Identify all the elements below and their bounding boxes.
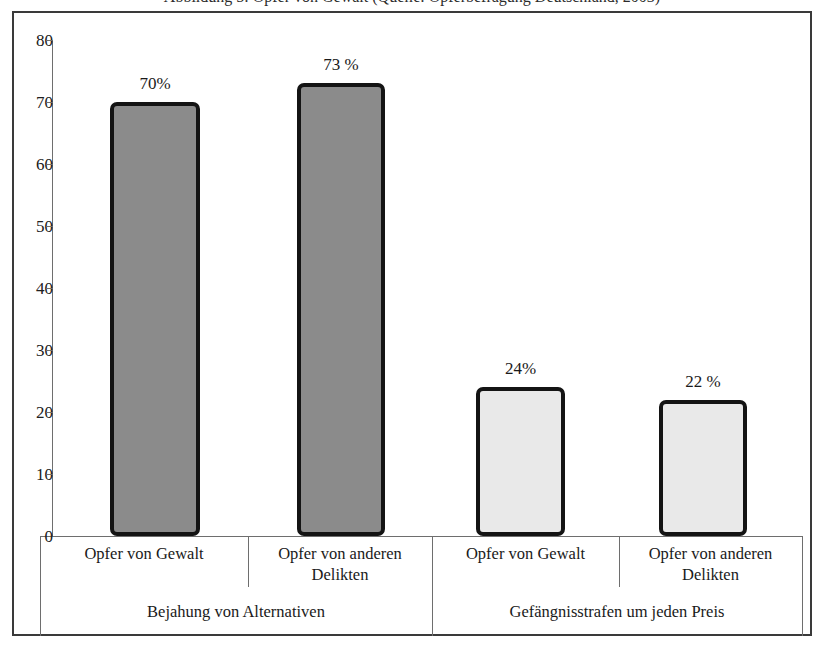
bar-0-value-label: 70% <box>110 75 200 93</box>
bar-3-value-label: 22 % <box>659 373 747 391</box>
category-label-0: Opfer von Gewalt <box>40 543 248 564</box>
bar-1[interactable] <box>297 83 385 536</box>
group-label-0: Bejahung von Alternativen <box>40 601 432 622</box>
category-label-2-line1: Opfer von Gewalt <box>432 543 619 564</box>
bar-2-value-label: 24% <box>476 360 565 378</box>
category-sep-right <box>802 536 803 587</box>
group-label-1: Gefängnisstrafen um jeden Preis <box>432 601 802 622</box>
bar-3[interactable] <box>659 400 747 536</box>
y-tick-mark-60 <box>46 164 53 165</box>
bar-2[interactable] <box>476 387 565 536</box>
y-tick-mark-40 <box>46 288 53 289</box>
bar-1-value-label: 73 % <box>297 56 385 74</box>
category-label-1-line2: Delikten <box>248 564 432 585</box>
y-tick-mark-30 <box>46 350 53 351</box>
bar-0[interactable] <box>110 102 200 536</box>
category-label-1: Opfer von anderen Delikten <box>248 543 432 585</box>
bar-chart-plot-area: 80 70 60 50 40 30 20 10 <box>14 13 814 638</box>
figure-frame: 80 70 60 50 40 30 20 10 <box>12 11 812 636</box>
figure-caption: Abbildung 5: Opfer von Gewalt (Quelle: O… <box>164 0 660 6</box>
y-tick-mark-70 <box>46 102 53 103</box>
category-label-1-line1: Opfer von anderen <box>248 543 432 564</box>
category-label-2: Opfer von Gewalt <box>432 543 619 564</box>
category-label-3-line1: Opfer von anderen <box>619 543 802 564</box>
y-tick-mark-80 <box>46 40 53 41</box>
category-label-0-line1: Opfer von Gewalt <box>40 543 248 564</box>
category-label-3-line2: Delikten <box>619 564 802 585</box>
group-sep-right <box>802 587 803 636</box>
y-tick-mark-50 <box>46 226 53 227</box>
y-tick-mark-20 <box>46 412 53 413</box>
category-label-3: Opfer von anderen Delikten <box>619 543 802 585</box>
y-tick-mark-10 <box>46 474 53 475</box>
x-axis-line <box>40 536 802 537</box>
